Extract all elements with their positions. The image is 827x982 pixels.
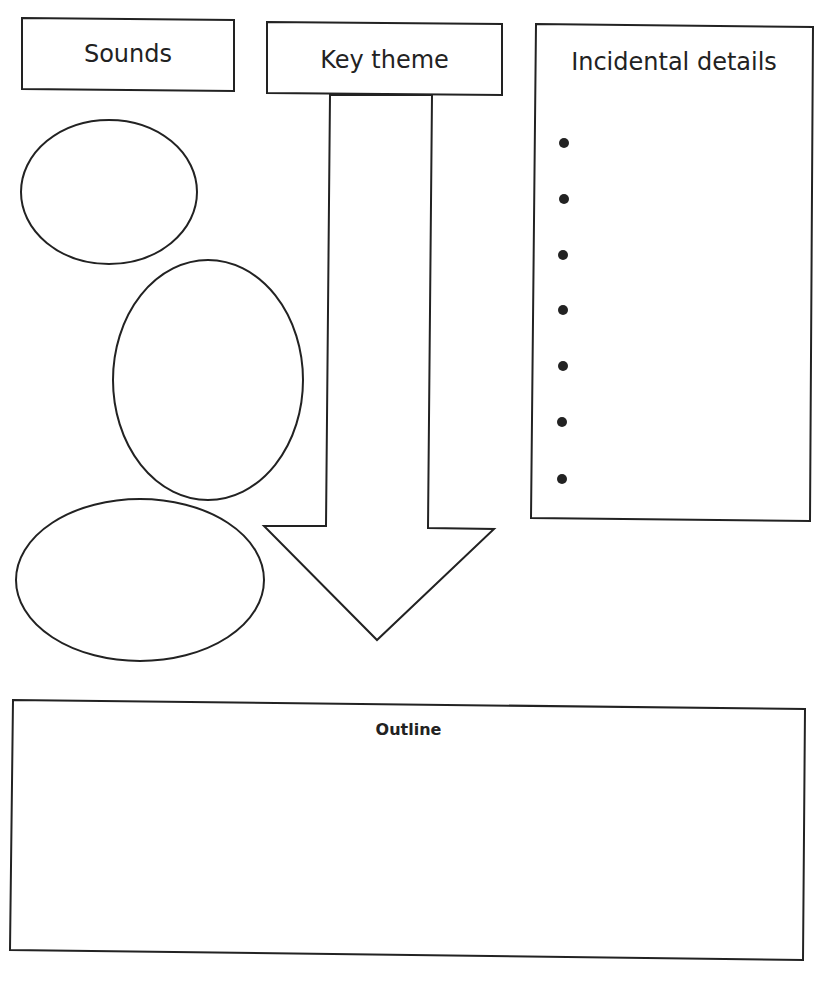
outline-box — [10, 700, 805, 960]
bullet-icon — [558, 250, 568, 260]
incidental-details-label: Incidental details — [535, 48, 813, 76]
outline-label: Outline — [12, 720, 805, 739]
bullet-icon — [557, 417, 567, 427]
sound-ellipse-2 — [113, 260, 303, 500]
bullet-icon — [559, 138, 569, 148]
sounds-label: Sounds — [22, 18, 234, 91]
incidental-details-box — [531, 24, 813, 521]
bullet-icon — [557, 474, 567, 484]
key-theme-label: Key theme — [267, 22, 502, 95]
diagram-canvas — [0, 0, 827, 982]
down-arrow-icon — [264, 95, 494, 640]
bullet-icon — [558, 305, 568, 315]
sound-ellipse-3 — [16, 499, 264, 661]
bullet-icon — [559, 194, 569, 204]
bullet-icon — [558, 361, 568, 371]
bullet-list — [557, 138, 569, 484]
sound-ellipse-1 — [21, 120, 197, 264]
